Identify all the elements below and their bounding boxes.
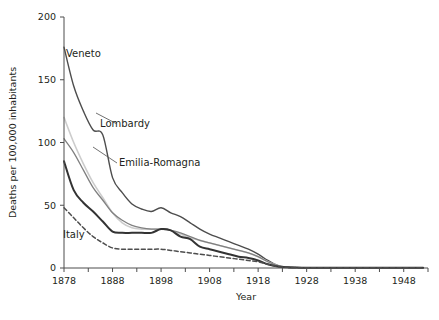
series-annotation-lombardy: Lombardy [100, 118, 150, 129]
x-tick-label: 1918 [246, 275, 270, 286]
x-axis-title: Year [235, 291, 256, 302]
y-tick-label: 50 [44, 200, 56, 211]
series-annotation-italy: Italy [63, 229, 85, 240]
y-axis-title: Deaths per 100,000 inhabitants [7, 67, 18, 218]
x-tick-label: 1898 [149, 275, 173, 286]
y-tick-label: 0 [50, 262, 56, 273]
labels-layer: YearDeaths per 100,000 inhabitantsVeneto… [7, 48, 256, 302]
deaths-per-100000-line-chart: 0501001502001878188818981908191819281938… [0, 0, 439, 320]
series-line-veneto [64, 47, 423, 268]
y-tick-label: 200 [38, 11, 56, 22]
series-annotation-veneto: Veneto [66, 48, 101, 59]
x-tick-label: 1908 [198, 275, 222, 286]
annotation-leader-line [93, 147, 117, 163]
x-tick-label: 1878 [52, 275, 76, 286]
chart-container: 0501001502001878188818981908191819281938… [0, 0, 439, 320]
y-tick-label: 100 [38, 137, 56, 148]
x-tick-label: 1888 [100, 275, 124, 286]
y-tick-label: 150 [38, 74, 56, 85]
x-tick-label: 1928 [295, 275, 319, 286]
series-line-lombardy [64, 117, 423, 267]
series-layer [64, 47, 423, 268]
x-tick-label: 1948 [392, 275, 416, 286]
series-annotation-emilia-romagna: Emilia-Romagna [119, 157, 200, 168]
x-tick-label: 1938 [343, 275, 367, 286]
